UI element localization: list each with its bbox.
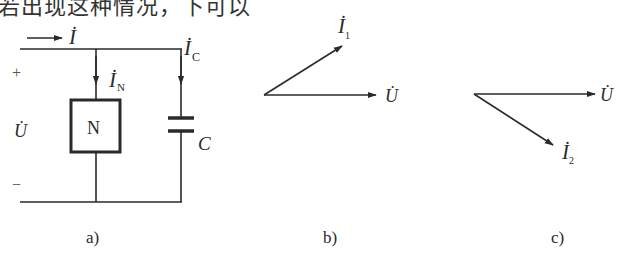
- caption-a: a): [86, 228, 99, 247]
- label-voltage-b: U̇: [385, 85, 399, 106]
- caption-b: b): [323, 228, 337, 247]
- phasor-i1: [264, 46, 342, 95]
- label-i-total: İ: [68, 25, 77, 49]
- phasor-diagram-c: [474, 94, 595, 145]
- circuit-and-phasor-diagrams: İ İ N İ C + − U̇ N C İ 1 U̇ U̇ İ 2 a) b)…: [0, 0, 617, 253]
- label-plus: +: [12, 64, 21, 81]
- label-i1-sub: 1: [345, 30, 350, 41]
- label-voltage-c: U̇: [600, 84, 614, 105]
- label-voltage-a: U̇: [14, 120, 28, 141]
- label-network-n: N: [87, 118, 100, 138]
- caption-c: c): [551, 228, 564, 247]
- label-capacitor-c: C: [198, 133, 211, 154]
- phasor-i2: [474, 94, 553, 145]
- phasor-diagram-b: [264, 46, 376, 95]
- label-minus: −: [12, 176, 21, 193]
- label-i-c-sub: C: [192, 50, 200, 64]
- label-i-n: İ: [108, 68, 117, 92]
- circuit-diagram: [20, 38, 194, 202]
- label-i-c: İ: [183, 36, 192, 60]
- label-i2-sub: 2: [569, 155, 574, 166]
- label-i-n-sub: N: [117, 81, 125, 93]
